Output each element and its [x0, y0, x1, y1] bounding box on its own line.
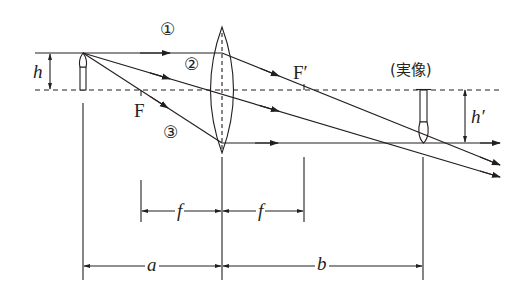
object-candle — [79, 53, 86, 90]
image-distance-label: b — [315, 254, 329, 273]
ray-2-arrow-2 — [260, 106, 279, 112]
ray-1-refracted-arrow — [260, 68, 279, 76]
object-distance-label: a — [145, 255, 159, 274]
diagram-graphics — [0, 0, 529, 299]
ray-2-end-arrow — [480, 171, 500, 177]
ray-1-label: ① — [160, 21, 175, 38]
image-height-label: h′ — [471, 107, 485, 126]
real-image-caption: (実像) — [390, 63, 432, 78]
ray-2-line — [83, 53, 500, 177]
ray-2 — [83, 53, 500, 164]
ray-3-label: ③ — [163, 124, 178, 141]
ray-3-incident-arrow — [150, 96, 168, 108]
ray-1-end-arrow — [480, 157, 500, 165]
lens-ray-diagram: ① ② ③ F F′ h h′ (実像) f f a b — [0, 0, 529, 299]
object-height-label: h — [33, 62, 43, 81]
ray-2-label: ② — [184, 56, 199, 73]
focal-length-right-label: f — [256, 201, 265, 220]
focal-point-back-label: F′ — [293, 63, 308, 82]
image-candle — [416, 90, 431, 144]
focal-point-front-label: F — [134, 101, 145, 120]
focal-length-left-label: f — [175, 201, 184, 220]
